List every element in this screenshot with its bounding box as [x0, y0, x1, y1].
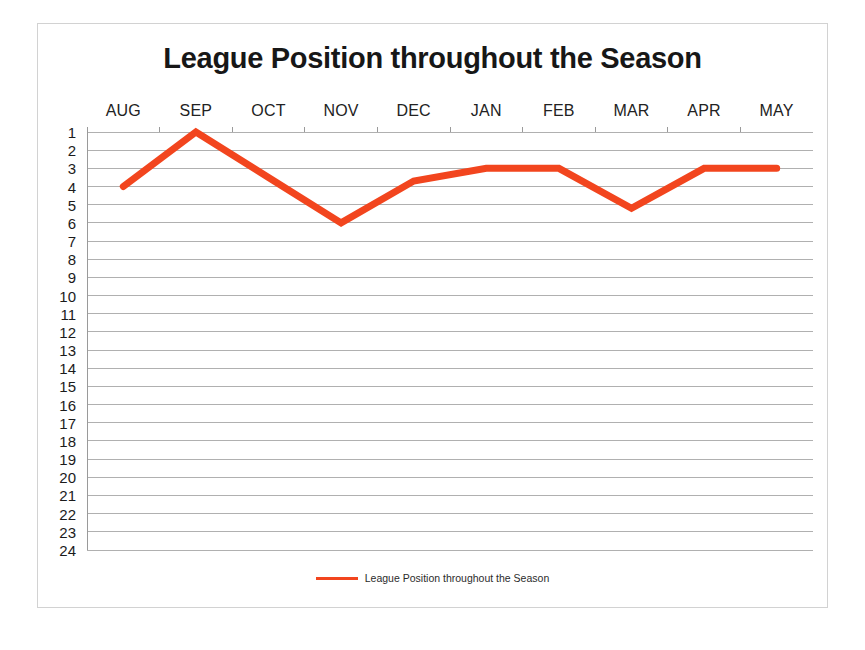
- y-axis-tick-label: 5: [68, 197, 76, 212]
- x-axis-tick-label: AUG: [87, 98, 160, 124]
- chart-frame: League Position throughout the Season AU…: [37, 23, 828, 608]
- y-axis-tick-label: 19: [59, 452, 76, 467]
- y-axis-tick-label: 6: [68, 215, 76, 230]
- y-axis-tick-label: 14: [59, 361, 76, 376]
- chart-legend: League Position throughout the Season: [38, 572, 827, 584]
- x-axis-tick-label: DEC: [377, 98, 450, 124]
- y-axis-tick-label: 9: [68, 270, 76, 285]
- y-axis-tick-label: 18: [59, 433, 76, 448]
- y-axis-tick-label: 15: [59, 379, 76, 394]
- y-axis-tick-label: 8: [68, 252, 76, 267]
- y-axis-tick-label: 23: [59, 524, 76, 539]
- legend-label: League Position throughout the Season: [365, 572, 549, 584]
- x-axis-tick-label: OCT: [232, 98, 305, 124]
- y-axis-tick-label: 12: [59, 324, 76, 339]
- plot-area: [87, 132, 813, 550]
- legend-swatch-icon: [316, 577, 358, 580]
- series-line-league-position: [87, 132, 813, 550]
- y-axis-tick-label: 16: [59, 397, 76, 412]
- x-axis-tick-label: MAR: [595, 98, 668, 124]
- y-axis-tick-label: 3: [68, 161, 76, 176]
- x-axis-tick-label: FEB: [523, 98, 596, 124]
- x-axis-labels: AUGSEPOCTNOVDECJANFEBMARAPRMAY: [87, 98, 813, 124]
- y-axis-tick-label: 20: [59, 470, 76, 485]
- x-axis-tick-label: SEP: [160, 98, 233, 124]
- y-axis-tick-label: 2: [68, 143, 76, 158]
- y-axis-tick-label: 17: [59, 415, 76, 430]
- y-axis-labels: 123456789101112131415161718192021222324: [38, 132, 82, 550]
- x-axis-tick-label: MAY: [740, 98, 813, 124]
- y-axis-tick-label: 10: [59, 288, 76, 303]
- y-axis-tick-label: 24: [59, 543, 76, 558]
- y-axis-tick-label: 1: [68, 125, 76, 140]
- y-axis-tick-label: 11: [60, 306, 76, 321]
- x-axis-tick-label: NOV: [305, 98, 378, 124]
- y-axis-tick-label: 13: [59, 343, 76, 358]
- y-axis-tick-label: 4: [68, 179, 76, 194]
- x-axis-tick-label: JAN: [450, 98, 523, 124]
- x-axis-tick-label: APR: [668, 98, 741, 124]
- y-axis-tick-label: 7: [68, 234, 76, 249]
- chart-title: League Position throughout the Season: [38, 42, 827, 75]
- y-axis-tick-label: 22: [59, 506, 76, 521]
- y-axis-tick-label: 21: [59, 488, 76, 503]
